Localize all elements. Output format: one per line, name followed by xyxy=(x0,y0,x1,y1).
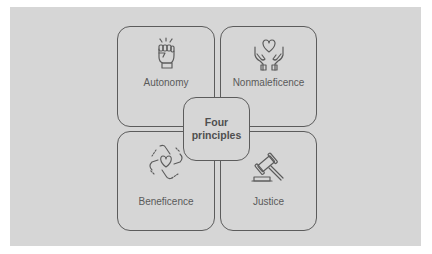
raised-fist-icon xyxy=(153,37,179,71)
center-title-line1: Four xyxy=(192,116,242,129)
quadrant-label: Beneficence xyxy=(118,196,214,207)
center-title-line2: principles xyxy=(192,129,242,142)
quadrant-label: Nonmaleficence xyxy=(221,77,316,88)
gavel-icon xyxy=(249,150,289,188)
center-box: Four principles xyxy=(183,97,250,161)
hands-holding-heart-icon xyxy=(251,37,287,71)
quadrant-label: Autonomy xyxy=(118,77,214,88)
quadrant-label: Justice xyxy=(221,196,316,207)
joined-hands-heart-icon xyxy=(146,142,186,182)
